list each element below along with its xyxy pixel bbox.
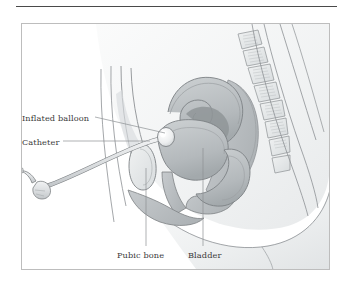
label-catheter: Catheter xyxy=(22,137,59,147)
inflation-valve-port xyxy=(17,168,23,173)
inflated-balloon xyxy=(158,128,175,147)
label-pubic-bone: Pubic bone xyxy=(117,250,164,260)
vertebra-8 xyxy=(272,155,290,173)
balloon-highlight xyxy=(160,131,166,138)
label-bladder: Bladder xyxy=(188,250,221,260)
vertebra-4 xyxy=(254,82,280,102)
connector-side-arm xyxy=(21,171,36,183)
catheter-connector xyxy=(17,168,51,199)
label-inflated-balloon: Inflated balloon xyxy=(22,113,89,123)
figure-page: Inflated balloon Catheter Pubic bone Bla… xyxy=(0,0,343,286)
